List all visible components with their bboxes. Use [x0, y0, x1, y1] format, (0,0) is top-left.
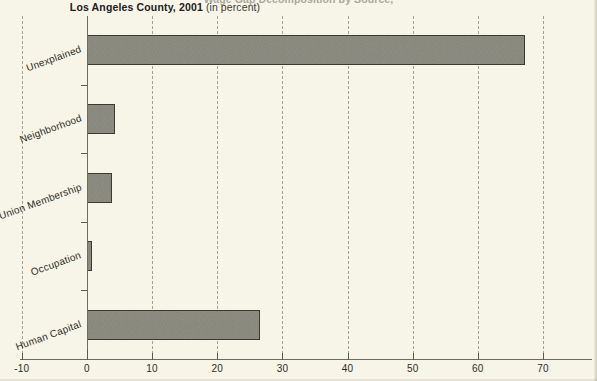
plot-area: [87, 16, 543, 359]
x-tick-label--10: -10: [14, 363, 29, 374]
y-tick-1: [81, 153, 87, 154]
x-tick-label-0: 0: [84, 363, 90, 374]
gridline-10: [152, 16, 153, 359]
x-tick-20: [217, 353, 218, 360]
y-label-neighborhood: Neighborhood: [18, 112, 83, 145]
x-tick--10: [22, 353, 23, 360]
x-tick-label-40: 40: [342, 363, 354, 374]
y-tick-2: [81, 222, 87, 223]
x-tick-label-70: 70: [537, 363, 549, 374]
chart-title: Los Angeles County, 2001 (in percent): [0, 1, 330, 14]
chart-title-units: (in percent): [206, 1, 260, 13]
chart-title-main: Los Angeles County, 2001: [70, 1, 203, 13]
x-tick-label-60: 60: [472, 363, 484, 374]
x-tick-0: [87, 350, 88, 360]
bar-human-capital: [87, 310, 260, 340]
x-tick-30: [282, 353, 283, 360]
y-label-union-membership: Union Membership: [0, 181, 83, 221]
y-label-human-capital: Human Capital: [15, 318, 83, 352]
bar-neighborhood: [87, 104, 115, 134]
x-tick-60: [478, 353, 479, 360]
gridline-20: [217, 16, 218, 359]
y-tick-0: [81, 85, 87, 86]
x-tick-10: [152, 353, 153, 360]
gridline-60: [478, 16, 479, 359]
bar-union-membership: [87, 173, 112, 203]
y-axis-spine: [87, 16, 88, 359]
bar-chart: Wage Gap Decomposition by Source, Los An…: [0, 0, 597, 381]
x-tick-label-50: 50: [407, 363, 419, 374]
x-tick-70: [543, 353, 544, 360]
x-tick-50: [413, 353, 414, 360]
gridline-70: [543, 16, 544, 359]
y-tick-3: [81, 290, 87, 291]
x-axis-line: [20, 359, 592, 360]
x-tick-40: [348, 353, 349, 360]
x-tick-label-10: 10: [146, 363, 158, 374]
gridline-40: [348, 16, 349, 359]
gridline-30: [282, 16, 283, 359]
y-label-unexplained: Unexplained: [25, 44, 83, 74]
gridline-50: [413, 16, 414, 359]
gridline--10: [22, 16, 23, 359]
y-label-occupation: Occupation: [30, 249, 83, 277]
x-tick-label-30: 30: [277, 363, 289, 374]
x-tick-label-20: 20: [212, 363, 224, 374]
bar-unexplained: [87, 35, 525, 65]
